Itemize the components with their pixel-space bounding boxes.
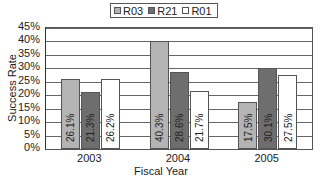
y-tick-label: 25%: [0, 74, 40, 86]
bar-r03-2004: 40.3%: [150, 41, 169, 149]
legend-label: R01: [191, 5, 211, 17]
gridline: [46, 28, 312, 29]
y-tick-label: 35%: [0, 47, 40, 59]
bar-value-label: 21.3%: [85, 114, 96, 142]
legend-swatch-r21: [148, 7, 155, 14]
bar-r01-2003: 26.2%: [101, 79, 120, 149]
bar-value-label: 17.5%: [242, 114, 253, 142]
bar-r21-2003: 21.3%: [81, 92, 100, 149]
bar-value-label: 30.1%: [262, 114, 273, 142]
x-tick-label: 2003: [59, 152, 119, 164]
bar-value-label: 26.1%: [65, 114, 76, 142]
bar-r03-2003: 26.1%: [61, 79, 80, 149]
bar-value-label: 27.5%: [282, 114, 293, 142]
y-tick-label: 5%: [0, 128, 40, 140]
legend-item-r21: R21: [148, 5, 177, 17]
gridline: [46, 55, 312, 56]
legend-swatch-r03: [114, 7, 121, 14]
x-axis-title: Fiscal Year: [0, 165, 322, 177]
legend-label: R21: [157, 5, 177, 17]
y-tick-label: 10%: [0, 114, 40, 126]
y-tick-label: 15%: [0, 101, 40, 113]
y-tick-label: 0%: [0, 141, 40, 153]
x-tick-label: 2004: [148, 152, 208, 164]
legend-swatch-r01: [182, 7, 189, 14]
bar-value-label: 21.7%: [194, 114, 205, 142]
y-tick-label: 20%: [0, 87, 40, 99]
y-tick-label: 30%: [0, 60, 40, 72]
bar-r21-2005: 30.1%: [258, 68, 277, 149]
bar-value-label: 40.3%: [154, 114, 165, 142]
bar-r03-2005: 17.5%: [238, 102, 257, 149]
bar-value-label: 28.6%: [174, 114, 185, 142]
y-tick-label: 45%: [0, 20, 40, 32]
legend-item-r03: R03: [114, 5, 143, 17]
bar-r01-2005: 27.5%: [278, 75, 297, 149]
x-tick-label: 2005: [237, 152, 297, 164]
legend-label: R03: [123, 5, 143, 17]
bar-r21-2004: 28.6%: [170, 72, 189, 149]
y-tick-label: 40%: [0, 33, 40, 45]
chart-legend: R03 R21 R01: [110, 3, 218, 18]
plot-area: 26.1%21.3%26.2%40.3%28.6%21.7%17.5%30.1%…: [45, 27, 313, 150]
bar-value-label: 26.2%: [105, 114, 116, 142]
gridline: [46, 41, 312, 42]
bar-r01-2004: 21.7%: [190, 91, 209, 149]
legend-item-r01: R01: [182, 5, 211, 17]
